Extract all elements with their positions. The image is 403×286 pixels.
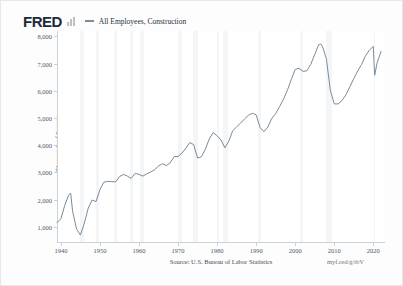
x-tick-mark [61,243,62,246]
permalink-url[interactable]: myf.red/g/tbV [327,258,364,265]
fred-logo: FRED [23,14,62,29]
x-tick-label: 1980 [211,247,224,254]
x-tick-mark [256,243,257,246]
chart-header: FRED All Employees, Construction [23,13,186,29]
series-line [57,31,385,243]
x-tick-label: 2010 [328,247,341,254]
x-tick-mark [334,243,335,246]
line-swatch-icon [85,20,94,22]
plot-area: 1,0002,0003,0004,0005,0006,0007,0008,000… [57,31,385,243]
x-tick-mark [178,243,179,246]
x-tick-label: 1940 [54,247,67,254]
x-tick-label: 1970 [172,247,185,254]
chart-legend[interactable]: All Employees, Construction [85,17,186,26]
y-tick-label: 3,000 [37,169,52,176]
x-tick-mark [217,243,218,246]
y-tick-label: 6,000 [37,87,52,94]
bar-chart-icon [67,17,76,26]
y-tick-label: 4,000 [37,142,52,149]
x-tick-label: 1950 [93,247,106,254]
x-tick-mark [100,243,101,246]
x-tick-label: 2020 [367,247,380,254]
x-tick-label: 1960 [133,247,146,254]
x-tick-mark [373,243,374,246]
y-tick-label: 7,000 [37,60,52,67]
y-tick-label: 2,000 [37,196,52,203]
x-tick-mark [295,243,296,246]
x-tick-label: 1990 [250,247,263,254]
legend-item-label: All Employees, Construction [99,17,186,26]
fred-chart-page: FRED All Employees, Construction Thousan… [0,0,403,286]
x-tick-mark [139,243,140,246]
y-tick-label: 8,000 [37,33,52,40]
y-tick-label: 1,000 [37,223,52,230]
y-tick-label: 5,000 [37,114,52,121]
x-tick-label: 2000 [289,247,302,254]
